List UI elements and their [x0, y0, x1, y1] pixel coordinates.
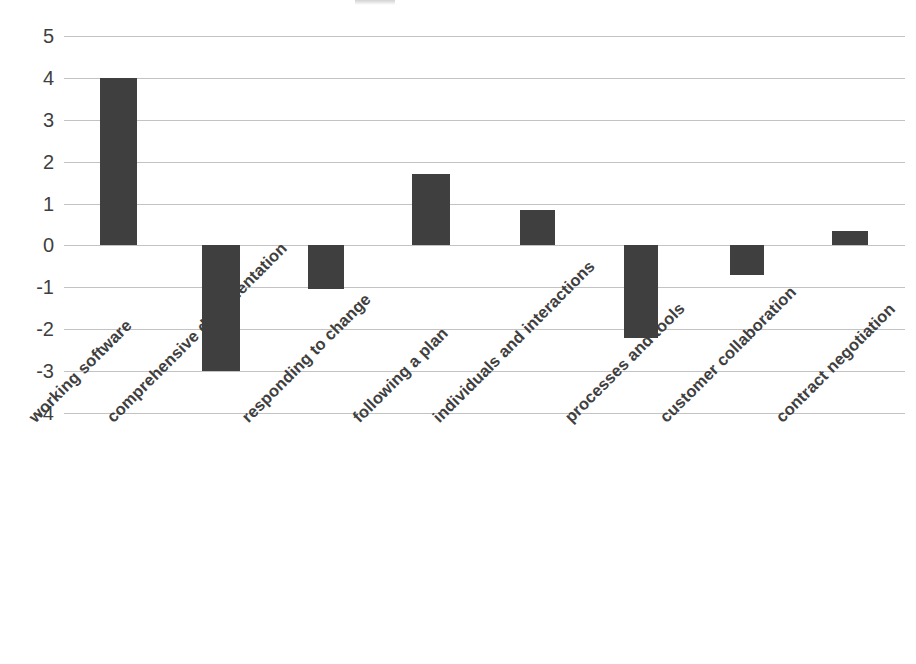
gridline — [64, 162, 905, 163]
gridline — [64, 204, 905, 205]
bar[interactable] — [730, 245, 764, 274]
y-axis-tick-label: 5 — [2, 26, 54, 46]
y-axis: 543210-1-2-3-4 — [0, 36, 54, 413]
gridline — [64, 78, 905, 79]
gridline — [64, 245, 905, 246]
y-axis-tick-label: -2 — [2, 319, 54, 339]
gridline — [64, 120, 905, 121]
x-axis-labels: working softwarecomprehensive documentat… — [0, 413, 916, 664]
gridline — [64, 36, 905, 37]
bar[interactable] — [412, 174, 450, 245]
bar[interactable] — [100, 78, 137, 246]
cropped-title-remnant — [355, 0, 395, 5]
bar[interactable] — [520, 210, 555, 246]
y-axis-tick-label: -3 — [2, 361, 54, 381]
y-axis-tick-label: 0 — [2, 235, 54, 255]
y-axis-tick-label: 1 — [2, 194, 54, 214]
bar[interactable] — [308, 245, 344, 289]
y-axis-tick-label: 4 — [2, 68, 54, 88]
y-axis-tick-label: 3 — [2, 110, 54, 130]
bar[interactable] — [832, 231, 868, 246]
y-axis-tick-label: -1 — [2, 277, 54, 297]
bar-chart: 543210-1-2-3-4 working softwarecomprehen… — [0, 0, 916, 664]
y-axis-tick-label: 2 — [2, 152, 54, 172]
